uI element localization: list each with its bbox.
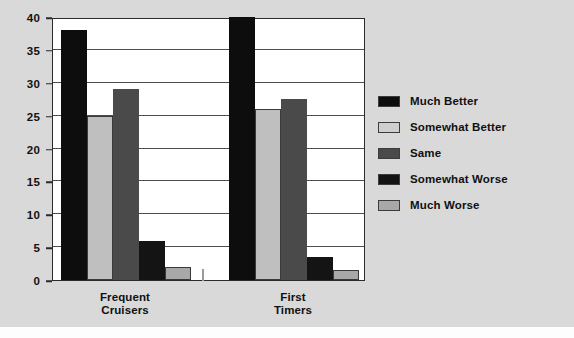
- legend-item-label: Much Worse: [410, 199, 480, 211]
- scan-artifact: [202, 269, 204, 281]
- legend: Much BetterSomewhat BetterSameSomewhat W…: [378, 88, 568, 218]
- legend-item-label: Somewhat Better: [410, 121, 506, 133]
- bar: [229, 17, 255, 280]
- category-label-line: Frequent: [50, 291, 200, 304]
- y-axis-tick-label: 20: [27, 144, 40, 156]
- bar: [139, 241, 165, 280]
- x-axis-category-label: FirstTimers: [218, 291, 368, 317]
- legend-swatch: [378, 200, 400, 211]
- legend-item-label: Same: [410, 147, 441, 159]
- legend-swatch: [378, 96, 400, 107]
- legend-item: Much Worse: [378, 192, 568, 218]
- bar: [333, 270, 359, 280]
- bar: [113, 89, 139, 280]
- bars-layer: [53, 19, 364, 280]
- legend-item-label: Somewhat Worse: [410, 173, 508, 185]
- legend-item-label: Much Better: [410, 95, 478, 107]
- plot-area: [52, 18, 365, 281]
- x-axis-category-label: FrequentCruisers: [50, 291, 200, 317]
- legend-swatch: [378, 122, 400, 133]
- page-bottom-strip: [0, 327, 574, 338]
- category-label-line: Timers: [218, 304, 368, 317]
- legend-item: Same: [378, 140, 568, 166]
- bar-group: [61, 19, 191, 280]
- legend-swatch: [378, 174, 400, 185]
- category-label-line: Cruisers: [50, 304, 200, 317]
- y-axis-tick-label: 25: [27, 111, 40, 123]
- bar: [307, 257, 333, 280]
- bar: [255, 109, 281, 280]
- y-axis: 0510152025303540: [0, 0, 46, 310]
- legend-item: Somewhat Worse: [378, 166, 568, 192]
- bar: [87, 116, 113, 280]
- bar: [165, 267, 191, 280]
- legend-item: Somewhat Better: [378, 114, 568, 140]
- y-axis-tick-label: 15: [27, 176, 40, 188]
- bar: [61, 30, 87, 280]
- y-axis-tick-label: 5: [33, 242, 40, 254]
- plot-wrapper: 0510152025303540 FrequentCruisersFirstTi…: [0, 0, 380, 310]
- legend-swatch: [378, 148, 400, 159]
- bar-chart-figure: 0510152025303540 FrequentCruisersFirstTi…: [0, 0, 574, 338]
- legend-item: Much Better: [378, 88, 568, 114]
- y-axis-tick-label: 30: [27, 78, 40, 90]
- bar: [281, 99, 307, 280]
- y-axis-tick-label: 0: [33, 275, 40, 287]
- y-axis-tick-label: 35: [27, 45, 40, 57]
- category-label-line: First: [218, 291, 368, 304]
- bar-group: [229, 19, 359, 280]
- y-axis-tick-label: 10: [27, 209, 40, 221]
- y-axis-tick-label: 40: [27, 12, 40, 24]
